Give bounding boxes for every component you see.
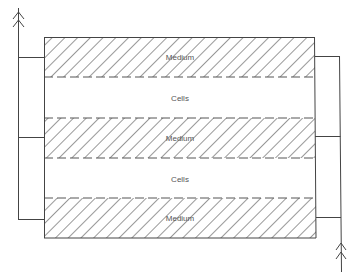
right-manifold: [315, 56, 346, 272]
layer-label: Medium: [166, 134, 195, 143]
left-manifold: [13, 8, 44, 220]
layer-medium-bottom: Medium: [44, 198, 316, 238]
layer-medium-middle: Medium: [44, 118, 315, 158]
layer-label: Medium: [166, 53, 195, 62]
layer-label: Medium: [166, 214, 195, 223]
layer-cells-upper: Cells: [171, 94, 189, 103]
diagram-canvas: Medium Cells Medium Cells Medium: [0, 0, 357, 276]
layer-label: Cells: [171, 175, 189, 184]
layer-label: Cells: [171, 94, 189, 103]
layer-medium-top: Medium: [44, 37, 315, 77]
layer-cells-lower: Cells: [171, 175, 189, 184]
